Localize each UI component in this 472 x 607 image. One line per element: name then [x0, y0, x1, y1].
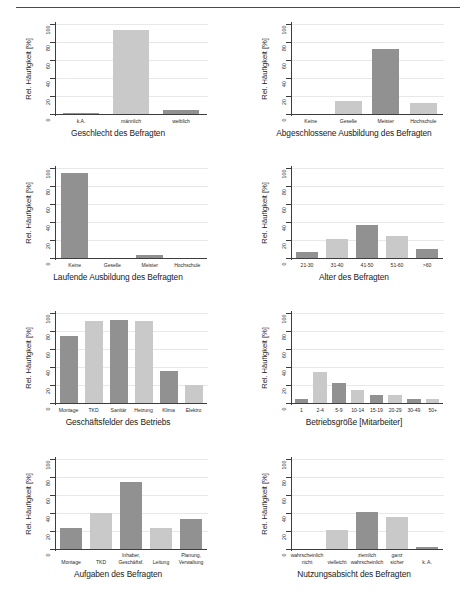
bar-laufende-ausbildung-2 — [136, 255, 163, 258]
bar-abgeschlossene-ausbildung-2 — [372, 49, 399, 114]
bar-aufgaben-0 — [60, 528, 82, 549]
bar-group — [292, 459, 442, 549]
y-tick-label-20: 20 — [45, 384, 51, 398]
y-tick-label-80: 80 — [281, 185, 287, 199]
bar-group — [56, 24, 206, 114]
bar-geschaeftsfelder-0 — [60, 336, 78, 404]
y-tick-label-40: 40 — [281, 77, 287, 91]
y-tick-label-60: 60 — [45, 348, 51, 362]
bar-geschaeftsfelder-3 — [135, 321, 153, 403]
y-axis-title-text: Rel. Häufigkeit [%] — [24, 168, 33, 258]
y-tick-label-20: 20 — [45, 530, 51, 544]
y-axis-title-text: Rel. Häufigkeit [%] — [260, 24, 269, 114]
y-tick-label-20: 20 — [281, 239, 287, 253]
x-axis-line — [291, 549, 443, 550]
bar-nutzungsabsicht-2 — [356, 512, 378, 549]
chart-panel-nutzungsabsicht: 020406080100Rel. Häufigkeit [%]wahrschei… — [236, 443, 472, 589]
x-tick-label-4: >60 — [397, 262, 457, 269]
bar-betriebsgroesse-6 — [407, 399, 421, 403]
bar-nutzungsabsicht-3 — [386, 517, 408, 549]
bar-group — [292, 168, 442, 258]
y-axis-title: Rel. Häufigkeit [%] — [24, 20, 34, 114]
bar-aufgaben-2 — [120, 482, 142, 549]
x-axis-title-alter: Alter des Befragten — [236, 272, 472, 282]
bar-group — [56, 168, 206, 258]
x-axis-title-laufende-ausbildung: Laufende Ausbildung des Befragten — [0, 272, 236, 282]
bar-betriebsgroesse-2 — [332, 383, 346, 403]
bar-geschaeftsfelder-5 — [185, 385, 203, 403]
bar-abgeschlossene-ausbildung-1 — [335, 101, 362, 115]
y-axis-title-text: Rel. Häufigkeit [%] — [260, 459, 269, 549]
bar-betriebsgroesse-1 — [313, 372, 327, 403]
y-tick-label-100: 100 — [281, 23, 287, 37]
y-axis-title: Rel. Häufigkeit [%] — [24, 164, 34, 258]
x-tick-label-3: Hochschule — [157, 262, 217, 269]
bar-laufende-ausbildung-0 — [61, 173, 88, 259]
chart-panel-betriebsgroesse: 020406080100Rel. Häufigkeit [%]12-45-910… — [236, 297, 472, 443]
chart-panel-geschaeftsfelder: 020406080100Rel. Häufigkeit [%]MontageTK… — [0, 297, 236, 443]
y-tick-label-100: 100 — [281, 458, 287, 472]
x-tick-label-5: Elektro — [164, 407, 224, 414]
bar-group — [56, 459, 206, 549]
y-tick-label-20: 20 — [45, 239, 51, 253]
y-axis-title-text: Rel. Häufigkeit [%] — [24, 313, 33, 403]
y-tick-label-40: 40 — [45, 366, 51, 380]
y-tick-label-100: 100 — [281, 312, 287, 326]
bar-group — [292, 24, 442, 114]
bar-group — [292, 313, 442, 403]
x-axis-title-geschaeftsfelder: Geschäftsfelder des Betriebs — [0, 417, 236, 427]
y-tick-label-20: 20 — [281, 95, 287, 109]
x-tick-label-7: 50+ — [403, 407, 463, 414]
bar-betriebsgroesse-3 — [351, 390, 365, 404]
chart-panel-aufgaben: 020406080100Rel. Häufigkeit [%]MontageTK… — [0, 443, 236, 589]
chart-panel-alter: 020406080100Rel. Häufigkeit [%]21-3031-4… — [236, 152, 472, 298]
y-axis-title: Rel. Häufigkeit [%] — [260, 164, 270, 258]
x-axis-line — [55, 258, 207, 259]
y-tick-label-100: 100 — [45, 312, 51, 326]
bar-alter-4 — [416, 249, 438, 258]
x-tick-label-4: k. A. — [397, 559, 457, 566]
x-tick-label-4: Planung,Verwaltung — [161, 552, 221, 565]
bar-betriebsgroesse-4 — [370, 395, 384, 403]
bar-geschlecht-1 — [113, 30, 149, 114]
bar-aufgaben-4 — [180, 519, 202, 549]
y-tick-label-20: 20 — [45, 95, 51, 109]
y-axis-title-text: Rel. Häufigkeit [%] — [260, 313, 269, 403]
y-tick-label-80: 80 — [45, 185, 51, 199]
chart-panel-geschlecht: 020406080100Rel. Häufigkeit [%]k.A.männl… — [0, 8, 236, 154]
bar-alter-2 — [356, 225, 378, 258]
y-tick-label-60: 60 — [281, 203, 287, 217]
x-tick-label-2: weiblich — [151, 118, 211, 125]
y-axis-title: Rel. Häufigkeit [%] — [260, 455, 270, 549]
y-tick-label-80: 80 — [45, 41, 51, 55]
bar-geschlecht-0 — [63, 113, 99, 114]
y-tick-label-40: 40 — [45, 221, 51, 235]
y-tick-label-60: 60 — [281, 494, 287, 508]
bar-geschaeftsfelder-1 — [85, 321, 103, 403]
y-tick-label-20: 20 — [281, 384, 287, 398]
y-tick-label-80: 80 — [281, 330, 287, 344]
bar-alter-0 — [296, 252, 318, 258]
y-tick-label-60: 60 — [281, 348, 287, 362]
y-tick-label-100: 100 — [281, 167, 287, 181]
bar-alter-1 — [326, 239, 348, 258]
y-axis-title: Rel. Häufigkeit [%] — [260, 20, 270, 114]
x-axis-line — [291, 114, 443, 115]
y-tick-label-40: 40 — [45, 77, 51, 91]
chart-panel-abgeschlossene-ausbildung: 020406080100Rel. Häufigkeit [%]KeineGese… — [236, 8, 472, 154]
x-axis-title-betriebsgroesse: Betriebsgröße [Mitarbeiter] — [236, 417, 472, 427]
y-axis-title-text: Rel. Häufigkeit [%] — [260, 168, 269, 258]
y-tick-label-60: 60 — [45, 494, 51, 508]
y-tick-label-100: 100 — [45, 167, 51, 181]
x-axis-title-aufgaben: Aufgaben des Befragten — [0, 569, 236, 579]
bar-betriebsgroesse-7 — [426, 399, 440, 404]
x-axis-line — [291, 403, 443, 404]
y-tick-label-40: 40 — [45, 512, 51, 526]
y-tick-label-40: 40 — [281, 512, 287, 526]
x-axis-title-geschlecht: Geschlecht des Befragten — [0, 128, 236, 138]
y-tick-label-100: 100 — [45, 458, 51, 472]
bar-betriebsgroesse-0 — [295, 399, 309, 404]
bar-abgeschlossene-ausbildung-3 — [410, 103, 437, 114]
x-axis-line — [55, 549, 207, 550]
bar-group — [56, 313, 206, 403]
